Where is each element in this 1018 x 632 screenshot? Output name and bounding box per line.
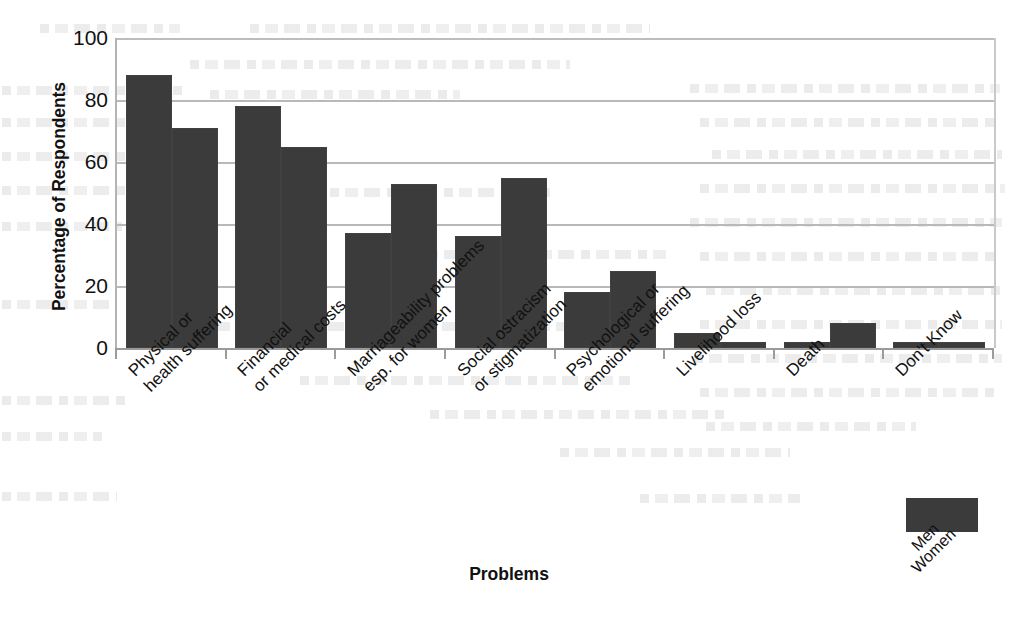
bar-men-1 (235, 106, 281, 348)
y-tick-label: 40 (64, 213, 108, 234)
y-tick-label: 60 (64, 151, 108, 172)
y-axis-tick-labels: 020406080100 (46, 0, 108, 632)
bar-women-6 (830, 323, 876, 348)
y-tick-label: 100 (64, 27, 108, 48)
bar-chart-figure: Percentage of Respondents 020406080100 P… (0, 0, 1018, 632)
bar-men-0 (126, 75, 172, 348)
legend-swatch-bar (906, 498, 978, 532)
y-tick-label: 20 (64, 275, 108, 296)
chart-legend: Men Women (906, 498, 1018, 628)
x-axis-title: Problems (0, 564, 1018, 585)
y-tick-label: 80 (64, 89, 108, 110)
x-axis-category-labels: Physical orhealth sufferingFinancialor m… (0, 348, 1018, 508)
